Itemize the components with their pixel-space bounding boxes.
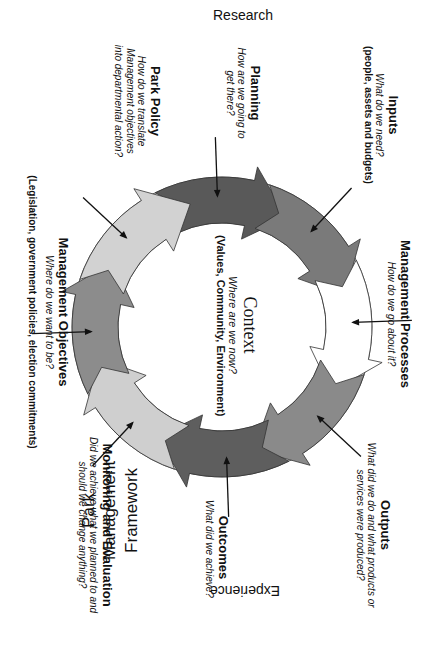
stage-title: Planning [247, 38, 262, 148]
context-label: Context Where are we now? (Values, Commu… [214, 235, 260, 415]
stage-title: Park Policy [147, 36, 162, 166]
framework-title-line-3: Framework [121, 461, 142, 560]
stage-title: Inputs [385, 30, 400, 200]
stage-title: Monitoring and Evaluation [99, 425, 114, 625]
stage-title: Outcomes [215, 500, 230, 595]
stage-management-processes-label: Management Processes How do we go about … [386, 234, 412, 394]
context-detail: (Values, Community, Environment) [214, 235, 227, 415]
context-question: Where are we now? [227, 235, 240, 415]
context-title: Context [239, 235, 260, 415]
stage-outputs-label: Outputs What did we do and what products… [354, 430, 392, 620]
stage-outcomes-label: Outcomes What did we achieve? [204, 500, 230, 595]
stage-management-objectives-label: Management Objectives Where do we want t… [26, 162, 70, 462]
stage-inputs-label: Inputs What do we need? (people, assets … [362, 30, 400, 200]
stage-park-policy-label: Park Policy How do we translate Manageme… [113, 36, 162, 166]
stage-title: Management Objectives [55, 162, 70, 462]
stage-title: Management Processes [397, 234, 412, 394]
axis-research: Research [213, 6, 273, 25]
stage-monitoring-evaluation-label: Monitoring and Evaluation Did we achieve… [76, 425, 114, 625]
stage-planning-label: Planning How are we going to get there? [224, 38, 262, 148]
stage-title: Outputs [377, 430, 392, 620]
